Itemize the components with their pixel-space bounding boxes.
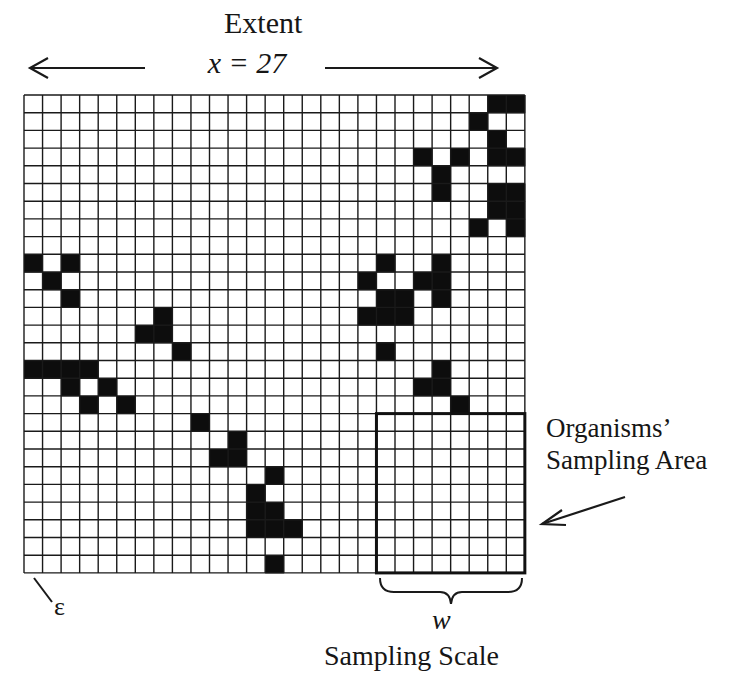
filled-cell — [265, 520, 284, 538]
filled-cell — [451, 148, 470, 166]
filled-cell — [154, 325, 173, 343]
filled-cell — [172, 343, 191, 361]
filled-cell — [506, 201, 525, 219]
filled-cell — [24, 361, 43, 379]
organisms-sampling-area-label: Organisms’ Sampling Area — [546, 412, 707, 476]
filled-cell — [61, 361, 80, 379]
filled-cell — [265, 555, 284, 573]
filled-cell — [265, 502, 284, 520]
filled-cell — [432, 254, 451, 272]
filled-cell — [228, 449, 247, 467]
filled-cell — [506, 219, 525, 237]
filled-cell — [414, 148, 433, 166]
filled-cell — [488, 148, 507, 166]
filled-cell — [432, 361, 451, 379]
filled-cell — [376, 290, 395, 308]
filled-cell — [228, 431, 247, 449]
filled-cell — [61, 254, 80, 272]
filled-cell — [43, 272, 62, 290]
filled-cell — [488, 201, 507, 219]
filled-cell — [265, 467, 284, 485]
filled-cell — [432, 272, 451, 290]
w-label: w — [432, 604, 451, 636]
filled-cell — [395, 290, 414, 308]
extent-arrow-icon — [30, 58, 497, 78]
filled-cell — [488, 95, 507, 113]
filled-cell — [395, 307, 414, 325]
filled-cell — [432, 166, 451, 184]
filled-cell — [284, 520, 303, 538]
filled-cell — [98, 378, 117, 396]
filled-cell — [247, 484, 266, 502]
filled-cell — [210, 449, 229, 467]
filled-cell — [469, 113, 488, 131]
sampling-scale-brace-icon — [380, 578, 522, 604]
sampling-scale-label: Sampling Scale — [324, 640, 499, 672]
filled-cell — [506, 148, 525, 166]
filled-cell — [451, 396, 470, 414]
filled-cell — [506, 184, 525, 202]
filled-cell — [24, 254, 43, 272]
filled-cell — [414, 378, 433, 396]
filled-cell — [358, 307, 377, 325]
sampling-area-arrow-icon — [542, 497, 625, 525]
filled-cell — [80, 396, 99, 414]
filled-cell — [247, 502, 266, 520]
filled-cell — [414, 272, 433, 290]
filled-cell — [154, 307, 173, 325]
filled-cell — [247, 520, 266, 538]
filled-cell — [376, 307, 395, 325]
epsilon-pointer-icon — [34, 578, 52, 602]
filled-cell — [43, 361, 62, 379]
filled-cell — [135, 325, 154, 343]
filled-cell — [358, 272, 377, 290]
filled-cell — [506, 95, 525, 113]
filled-cell — [469, 219, 488, 237]
landscape-grid-diagram — [0, 0, 754, 690]
filled-cell — [61, 378, 80, 396]
organisms-label-line1: Organisms’ — [546, 412, 707, 444]
filled-cell — [488, 184, 507, 202]
epsilon-label: ε — [54, 592, 65, 622]
filled-cell — [432, 290, 451, 308]
filled-cell — [80, 361, 99, 379]
filled-cell — [488, 130, 507, 148]
filled-cell — [376, 254, 395, 272]
filled-cell — [432, 378, 451, 396]
filled-cell — [117, 396, 136, 414]
filled-cell — [61, 290, 80, 308]
filled-cell — [376, 343, 395, 361]
organisms-label-line2: Sampling Area — [546, 444, 707, 476]
filled-cell — [191, 414, 210, 432]
filled-cell — [432, 184, 451, 202]
